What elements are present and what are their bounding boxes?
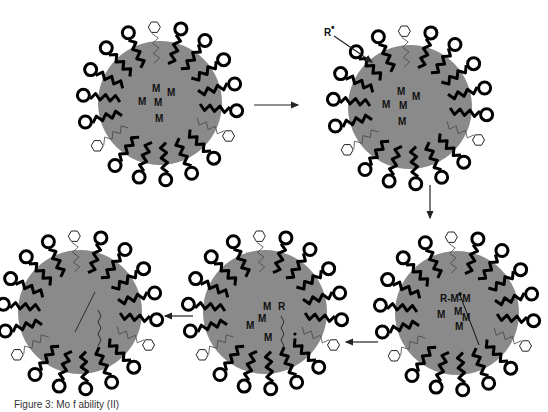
benzene-ring-icon (328, 340, 340, 350)
surfactant-head-icon (160, 174, 172, 186)
surfactant-head-icon (483, 377, 495, 389)
surfactant-head-icon (231, 105, 243, 117)
surfactant-head-icon (374, 299, 386, 311)
surfactant-head-icon (79, 116, 91, 128)
surfactant-head-icon (397, 252, 409, 264)
surfactant-head-icon (20, 251, 32, 263)
surfactant-head-icon (382, 274, 394, 286)
surfactant-head-icon (410, 178, 422, 190)
benzene-ring-icon (91, 141, 103, 151)
monomer-label: M (263, 301, 271, 312)
figure-caption: Figure 3: Mo f ability (II) (14, 399, 119, 410)
monomer-label: M (246, 320, 254, 331)
surfactant-head-icon (182, 298, 194, 310)
surfactant-head-icon (359, 164, 371, 176)
benzene-ring-icon (148, 22, 160, 32)
surfactant-head-icon (323, 263, 335, 275)
radical-label: R • (324, 22, 372, 62)
surfactant-head-icon (528, 315, 540, 327)
surfactant-head-icon (119, 243, 131, 255)
monomer-label: M (455, 321, 463, 332)
surfactant-head-icon (5, 273, 17, 285)
monomer-label: M (138, 96, 146, 107)
surfactant-head-icon (329, 120, 341, 132)
monomer-label: M (437, 309, 445, 320)
surfactant-head-icon (151, 314, 163, 326)
benzene-ring-icon (388, 351, 400, 361)
surfactant-head-icon (425, 27, 437, 39)
benzene-ring-icon (223, 131, 235, 141)
surfactant-head-icon (218, 54, 230, 66)
monomer-label: R (278, 301, 286, 312)
surfactant-head-icon (227, 236, 239, 248)
surfactant-head-icon (100, 42, 112, 54)
surfactant-head-icon (515, 264, 527, 276)
surfactant-head-icon (313, 361, 325, 373)
surfactant-head-icon (229, 78, 241, 90)
surfactant-head-icon (304, 243, 316, 255)
surfactant-head-icon (80, 383, 92, 395)
surfactant-head-icon (479, 82, 491, 94)
micelle-stage-3: R-M-MMMMM (374, 232, 539, 396)
surfactant-head-icon (468, 58, 480, 70)
monomer-label: M (398, 116, 406, 127)
micelle-stage-2: MMMMM (327, 26, 492, 190)
surfactant-head-icon (29, 369, 41, 381)
benzene-ring-icon (445, 232, 457, 242)
surfactant-head-icon (149, 287, 161, 299)
surfactant-head-icon (372, 31, 384, 43)
surfactant-head-icon (53, 380, 65, 392)
surfactant-head-icon (85, 64, 97, 76)
surfactant-head-icon (199, 34, 211, 46)
micelle-stage-4: MRMMM (182, 231, 347, 395)
surfactant-head-icon (77, 89, 89, 101)
benzene-ring-icon (143, 340, 155, 350)
surfactant-head-icon (472, 233, 484, 245)
surfactant-head-icon (265, 383, 277, 395)
surfactant-head-icon (122, 27, 134, 39)
surfactant-head-icon (458, 156, 470, 168)
svg-text:•: • (331, 22, 335, 33)
surfactant-head-icon (481, 109, 493, 121)
surfactant-head-icon (430, 381, 442, 393)
benzene-ring-icon (68, 231, 80, 241)
surfactant-head-icon (335, 68, 347, 80)
benzene-ring-icon (341, 145, 353, 155)
surfactant-head-icon (496, 244, 508, 256)
emulsion-polymerization-diagram: MMMMMMMMMMR-M-MMMMMMRMMM R • (0, 0, 548, 412)
benzene-ring-icon (11, 350, 23, 360)
surfactant-head-icon (95, 232, 107, 244)
surfactant-head-icon (190, 273, 202, 285)
surfactant-head-icon (291, 376, 303, 388)
surfactant-head-icon (383, 175, 395, 187)
micelle-stage-1: MMMMM (77, 22, 242, 186)
surfactant-head-icon (128, 361, 140, 373)
monomer-label: M (154, 97, 162, 108)
surfactant-head-icon (449, 38, 461, 50)
surfactant-head-icon (376, 326, 388, 338)
monomer-label: M (399, 100, 407, 111)
surfactant-head-icon (0, 325, 11, 337)
monomer-label: M (258, 313, 266, 324)
surfactant-head-icon (175, 23, 187, 35)
surfactant-head-icon (138, 263, 150, 275)
surfactant-head-icon (106, 376, 118, 388)
surfactant-head-icon (436, 171, 448, 183)
monomer-label: M (152, 83, 160, 94)
micelle-stage-5 (0, 231, 163, 395)
surfactant-head-icon (336, 314, 348, 326)
monomer-label: M (382, 99, 390, 110)
surfactant-head-icon (238, 380, 250, 392)
surfactant-head-icon (42, 236, 54, 248)
surfactant-head-icon (205, 251, 217, 263)
surfactant-head-icon (334, 287, 346, 299)
benzene-ring-icon (473, 135, 485, 145)
surfactant-head-icon (208, 152, 220, 164)
monomer-label: M (155, 113, 163, 124)
radical-dot (293, 332, 296, 335)
surfactant-head-icon (280, 232, 292, 244)
benzene-ring-icon (253, 231, 265, 241)
surfactant-head-icon (133, 171, 145, 183)
surfactant-head-icon (406, 370, 418, 382)
surfactant-head-icon (186, 167, 198, 179)
